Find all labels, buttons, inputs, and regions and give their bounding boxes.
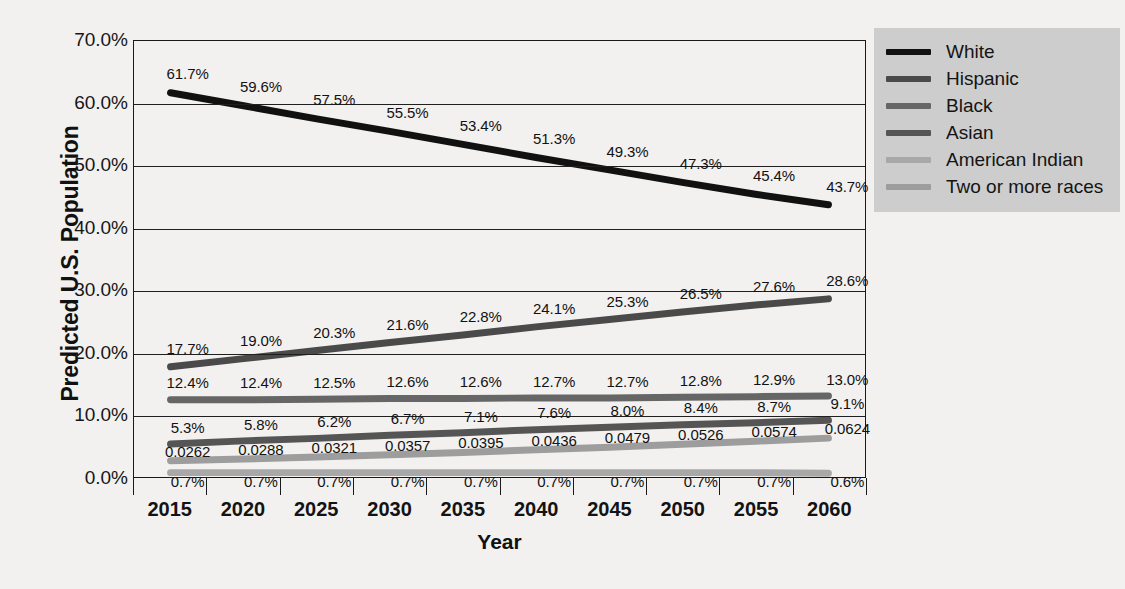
- data-label: 0.0526: [678, 426, 723, 443]
- gridline: [134, 354, 865, 355]
- data-label: 12.6%: [460, 373, 502, 390]
- data-label: 0.7%: [244, 473, 278, 490]
- data-label: 13.0%: [826, 371, 868, 388]
- x-axis-tick-label: 2045: [587, 498, 632, 521]
- series-lines: [134, 41, 865, 477]
- data-label: 17.7%: [167, 340, 209, 357]
- x-axis-tickmark: [426, 478, 427, 495]
- data-label: 21.6%: [387, 316, 429, 333]
- x-axis-tickmark: [866, 478, 867, 495]
- legend-swatch-icon: [886, 49, 931, 55]
- data-label: 22.8%: [460, 308, 502, 325]
- chart-legend: WhiteHispanicBlackAsianAmerican IndianTw…: [874, 28, 1120, 212]
- x-axis-tickmark: [573, 478, 574, 495]
- x-axis-tick-label: 2055: [734, 498, 779, 521]
- data-label: 0.7%: [317, 473, 351, 490]
- x-axis-tickmark: [133, 478, 134, 495]
- legend-item-black[interactable]: Black: [874, 92, 1120, 119]
- data-label: 9.1%: [830, 395, 864, 412]
- data-label: 53.4%: [460, 117, 502, 134]
- data-label: 6.7%: [391, 410, 425, 427]
- x-axis-tick-labels: 2015202020252030203520402045205020552060: [133, 498, 866, 528]
- data-label: 12.5%: [313, 374, 355, 391]
- x-axis-tickmark: [500, 478, 501, 495]
- data-label: 0.0436: [532, 432, 577, 449]
- data-label: 6.2%: [317, 413, 351, 430]
- data-label: 12.4%: [167, 374, 209, 391]
- legend-item-american-indian[interactable]: American Indian: [874, 146, 1120, 173]
- data-label: 25.3%: [606, 293, 648, 310]
- x-axis-tick-label: 2050: [661, 498, 706, 521]
- data-label: 26.5%: [680, 285, 722, 302]
- legend-swatch-icon: [886, 103, 931, 109]
- data-label: 47.3%: [680, 155, 722, 172]
- x-axis-tickmark: [646, 478, 647, 495]
- plot-area: [133, 40, 866, 478]
- x-axis-tick-label: 2015: [147, 498, 192, 521]
- y-axis-tick-labels: 0.0%10.0%20.0%30.0%40.0%50.0%60.0%70.0%: [42, 0, 128, 589]
- data-label: 0.7%: [684, 473, 718, 490]
- gridline: [134, 229, 865, 230]
- data-label: 12.4%: [240, 374, 282, 391]
- data-label: 0.0624: [825, 420, 870, 437]
- legend-item-label: White: [946, 41, 995, 63]
- x-axis-tick-label: 2025: [294, 498, 339, 521]
- x-axis-tickmark: [353, 478, 354, 495]
- x-axis-tick-label: 2035: [441, 498, 486, 521]
- legend-item-label: Asian: [946, 122, 994, 144]
- data-label: 0.6%: [830, 473, 864, 490]
- data-label: 61.7%: [167, 65, 209, 82]
- data-label: 7.1%: [464, 408, 498, 425]
- legend-item-asian[interactable]: Asian: [874, 119, 1120, 146]
- legend-swatch-icon: [886, 130, 931, 136]
- data-label: 0.0288: [238, 441, 283, 458]
- legend-item-label: Two or more races: [946, 176, 1103, 198]
- data-label: 0.0395: [458, 434, 503, 451]
- x-axis-tick-label: 2060: [807, 498, 852, 521]
- data-label: 49.3%: [606, 143, 648, 160]
- data-label: 7.6%: [537, 404, 571, 421]
- data-label: 5.8%: [244, 416, 278, 433]
- x-axis-tickmark: [719, 478, 720, 495]
- legend-item-label: Black: [946, 95, 992, 117]
- data-label: 5.3%: [171, 419, 205, 436]
- data-label: 51.3%: [533, 130, 575, 147]
- gridline: [134, 104, 865, 105]
- data-label: 0.7%: [171, 473, 205, 490]
- data-label: 43.7%: [826, 178, 868, 195]
- legend-item-label: American Indian: [946, 149, 1083, 171]
- data-label: 0.7%: [757, 473, 791, 490]
- data-label: 0.0357: [385, 437, 430, 454]
- y-axis-tick-label: 30.0%: [50, 279, 128, 301]
- x-axis-tickmark: [280, 478, 281, 495]
- data-label: 0.0321: [312, 439, 357, 456]
- y-axis-tick-label: 10.0%: [50, 404, 128, 426]
- series-line-white: [171, 93, 829, 205]
- data-label: 59.6%: [240, 78, 282, 95]
- x-axis-tickmark: [793, 478, 794, 495]
- y-axis-tick-label: 40.0%: [50, 217, 128, 239]
- data-label: 0.0262: [165, 443, 210, 460]
- data-label: 8.4%: [684, 399, 718, 416]
- x-axis-tick-label: 2020: [221, 498, 266, 521]
- legend-item-hispanic[interactable]: Hispanic: [874, 65, 1120, 92]
- data-label: 0.7%: [391, 473, 425, 490]
- legend-swatch-icon: [886, 76, 931, 82]
- y-axis-tick-label: 0.0%: [50, 467, 128, 489]
- y-axis-tick-label: 70.0%: [50, 29, 128, 51]
- data-label: 12.7%: [533, 373, 575, 390]
- data-label: 12.7%: [606, 373, 648, 390]
- legend-item-label: Hispanic: [946, 68, 1019, 90]
- legend-item-two-or-more-races[interactable]: Two or more races: [874, 173, 1120, 200]
- x-axis-title: Year: [133, 530, 866, 554]
- data-label: 12.6%: [387, 373, 429, 390]
- y-axis-tick-label: 20.0%: [50, 342, 128, 364]
- data-label: 0.7%: [611, 473, 645, 490]
- legend-item-white[interactable]: White: [874, 38, 1120, 65]
- data-label: 45.4%: [753, 167, 795, 184]
- x-axis-tickmark: [206, 478, 207, 495]
- data-label: 55.5%: [387, 104, 429, 121]
- data-label: 20.3%: [313, 324, 355, 341]
- data-label: 28.6%: [826, 272, 868, 289]
- data-label: 0.0574: [751, 423, 796, 440]
